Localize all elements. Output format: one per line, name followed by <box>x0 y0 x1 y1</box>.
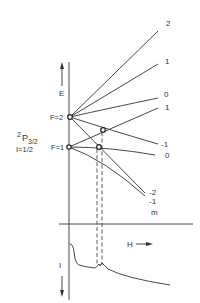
field-axis-label: H <box>127 240 133 249</box>
m-label: m <box>151 208 158 217</box>
level-point-F2 <box>68 115 73 120</box>
branch-label-F2-m2: 2 <box>166 19 171 28</box>
zeeman-diagram: E H I 2 P 3/2 I=1/2 F=2 F=1 2 1 0 1 -1 0… <box>0 0 200 303</box>
branch-label-F1-m0: 0 <box>165 151 170 160</box>
level-label-F2: F=2 <box>50 113 63 122</box>
branch-label-F1-m1: 1 <box>165 103 170 112</box>
state-label-superscript: 2 <box>17 131 21 138</box>
branch-F2-m1 <box>70 64 158 117</box>
crossing-point-lower <box>97 145 102 150</box>
level-point-F1 <box>67 145 71 149</box>
energy-axis-label: E <box>59 89 64 98</box>
crossing-point-upper <box>101 128 106 133</box>
state-label-subscript: 3/2 <box>28 138 38 145</box>
nuclear-spin-label: I=1/2 <box>16 145 33 154</box>
branch-label-F2-m1: 1 <box>165 57 170 66</box>
intensity-curve <box>70 244 170 285</box>
branch-F2-m2 <box>70 31 158 117</box>
field-arrow-icon <box>146 242 153 246</box>
branch-label-F2-m-2: -2 <box>149 188 157 197</box>
branch-F1-m0 <box>69 147 155 155</box>
intensity-arrow-icon <box>60 290 64 297</box>
energy-arrow-icon <box>60 62 64 69</box>
branch-label-F1-m-1: -1 <box>149 197 157 206</box>
level-label-F1: F=1 <box>51 143 64 152</box>
branch-label-F2-m0: 0 <box>164 90 169 99</box>
intensity-axis-label: I <box>59 261 61 270</box>
branch-label-F2-m-1: -1 <box>161 140 169 149</box>
